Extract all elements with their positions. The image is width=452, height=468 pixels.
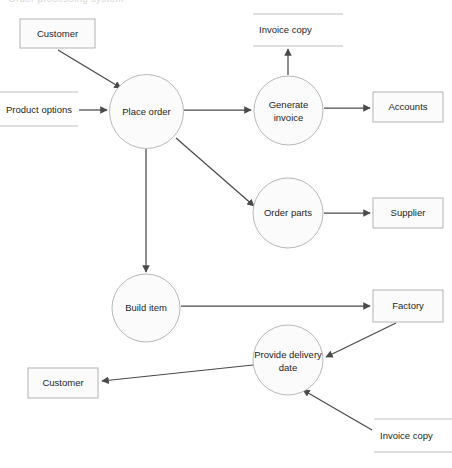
process-order-parts[interactable]: Order parts [253, 178, 323, 248]
process-provide-delivery-date[interactable]: Provide delivery date [253, 325, 323, 395]
entity-label-accounts: Accounts [388, 101, 427, 112]
flow-place-order-to-order-parts [176, 138, 254, 206]
entity-label-customer-top: Customer [37, 28, 78, 39]
process-generate-invoice[interactable]: Generate invoice [254, 76, 323, 145]
process-label-generate-invoice-line2: invoice [274, 112, 304, 123]
datastore-label-invoice-copy-top: Invoice copy [259, 24, 312, 35]
external-entity-supplier[interactable]: Supplier [373, 198, 443, 228]
datastore-label-invoice-copy-bottom: Invoice copy [380, 430, 433, 441]
process-label-generate-invoice-line1: Generate [269, 99, 309, 110]
datastore-invoice-copy-bottom[interactable]: Invoice copy [374, 419, 452, 452]
flow-customer-to-place-order [58, 50, 121, 88]
external-entity-factory[interactable]: Factory [373, 290, 443, 322]
process-label-place-order: Place order [122, 106, 171, 117]
process-label-provide-delivery-date-line1: Provide delivery [254, 349, 322, 360]
flow-provide-delivery-date-to-customer [102, 365, 253, 381]
process-label-provide-delivery-date-line2: date [279, 362, 298, 373]
process-build-item[interactable]: Build item [112, 274, 180, 342]
external-entity-customer-top[interactable]: Customer [20, 19, 95, 48]
entity-label-factory: Factory [392, 300, 424, 311]
flow-factory-to-provide-delivery-date [326, 323, 396, 357]
process-place-order[interactable]: Place order [110, 75, 184, 149]
data-flow-diagram-canvas: Order processing system [0, 0, 452, 468]
external-entity-accounts[interactable]: Accounts [373, 92, 443, 122]
process-label-order-parts: Order parts [264, 207, 312, 218]
datastore-invoice-copy-top[interactable]: Invoice copy [253, 14, 343, 46]
diagram-svg: Product options Invoice copy Invoice cop… [0, 0, 452, 468]
flow-arrows-layer [58, 49, 396, 430]
datastore-product-options[interactable]: Product options [0, 92, 78, 126]
process-circle [253, 325, 323, 395]
flow-invoice-copy-to-provide-delivery-date [303, 390, 372, 430]
process-circle [254, 76, 323, 145]
external-entity-customer-bottom[interactable]: Customer [28, 368, 98, 398]
process-label-build-item: Build item [125, 302, 167, 313]
entity-label-customer-bottom: Customer [42, 377, 83, 388]
entity-label-supplier: Supplier [391, 207, 426, 218]
datastore-label-product-options: Product options [6, 104, 72, 115]
